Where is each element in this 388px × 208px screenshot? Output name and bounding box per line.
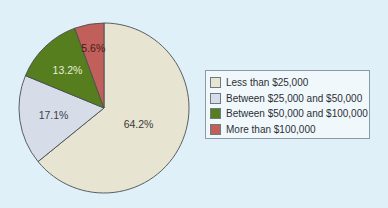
legend-item-less-than-25000: Less than $25,000 xyxy=(210,75,369,91)
legend-item-50000-to-100000: Between $50,000 and $100,000 xyxy=(210,106,369,122)
legend-label: Less than $25,000 xyxy=(226,77,308,88)
legend-swatch xyxy=(210,124,221,135)
slice-label-50000-to-100000: 13.2% xyxy=(53,64,83,76)
legend-item-25000-to-50000: Between $25,000 and $50,000 xyxy=(210,91,369,107)
legend-item-more-than-100000: More than $100,000 xyxy=(210,122,369,138)
legend-label: More than $100,000 xyxy=(226,124,316,135)
slice-label-less-than-25000: 64.2% xyxy=(124,118,154,130)
slice-label-more-than-100000: 5.6% xyxy=(81,42,105,54)
legend-label: Between $25,000 and $50,000 xyxy=(226,93,362,104)
legend: Less than $25,000 Between $25,000 and $5… xyxy=(205,70,370,139)
legend-swatch xyxy=(210,77,221,88)
legend-label: Between $50,000 and $100,000 xyxy=(226,108,368,119)
slice-label-25000-to-50000: 17.1% xyxy=(39,109,69,121)
pie-chart xyxy=(0,0,210,208)
legend-swatch xyxy=(210,93,221,104)
legend-swatch xyxy=(210,108,221,119)
